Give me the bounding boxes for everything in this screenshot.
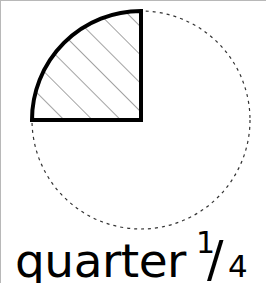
figure-page: quarter 1 / 4: [0, 0, 266, 283]
fraction-denominator: 4: [228, 251, 248, 282]
fraction-one-quarter: 1 / 4: [195, 232, 253, 283]
caption: quarter 1 / 4: [1, 229, 266, 283]
caption-word: quarter: [15, 237, 186, 283]
fraction-slash-icon: /: [207, 235, 224, 283]
quarter-hatch-fill: [21, 1, 156, 136]
